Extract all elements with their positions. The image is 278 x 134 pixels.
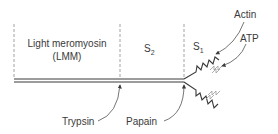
lower-atp-site [206,91,220,99]
myosin-tail [14,79,184,82]
actin-label: Actin [234,9,256,20]
lmm-abbrev-label: (LMM) [53,51,82,62]
s2-label: S2 [144,43,155,56]
papain-arrow [164,85,184,121]
atp-label: ATP [240,33,259,44]
s1-label: S1 [193,41,204,54]
upper-atp-site [210,66,222,73]
myosin-diagram: Light meromyosin (LMM) S2 S1 Trypsin Pap… [0,0,278,134]
lower-head [184,82,218,108]
atp-arrow [222,44,246,66]
trypsin-arrow [98,85,120,121]
papain-label: Papain [126,116,157,127]
lmm-label: Light meromyosin [28,38,107,49]
region-dividers [14,24,184,78]
trypsin-label: Trypsin [62,116,94,127]
